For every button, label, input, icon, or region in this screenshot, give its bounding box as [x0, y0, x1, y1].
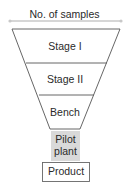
pilot-plant-label: Pilot plant	[51, 133, 80, 157]
header-label: No. of samples	[0, 8, 129, 20]
pilot-plant-line-1: Pilot	[51, 133, 80, 145]
pilot-plant-line-2: plant	[51, 145, 80, 157]
product-label: Product	[42, 165, 90, 177]
stage-label-stage-2: Stage II	[30, 73, 100, 85]
funnel-diagram	[0, 0, 129, 188]
stage-label-bench: Bench	[30, 106, 100, 118]
stage-label-stage-1: Stage I	[30, 40, 100, 52]
